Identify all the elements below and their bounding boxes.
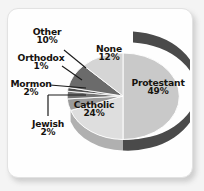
pie-label-protestant-value: 49% [126,87,190,96]
pie-label-jewish: Jewish 2% [25,119,71,138]
pie-chart: Other 10% Orthodox 1% Mormon 2% Jewish 2… [0,0,204,191]
pie-label-orthodox-value: 1% [10,62,72,71]
pie-label-catholic-value: 24% [68,109,120,118]
pie-label-none-value: 12% [88,53,130,62]
pie-label-protestant: Protestant 49% [126,78,190,97]
pie-label-none: None 12% [88,44,130,63]
pie-label-other: Other 10% [24,27,70,46]
pie-label-orthodox: Orthodox 1% [10,53,72,72]
chart-figure: Other 10% Orthodox 1% Mormon 2% Jewish 2… [0,0,204,191]
pie-label-other-value: 10% [24,36,70,45]
pie-label-catholic: Catholic 24% [68,100,120,119]
pie-label-jewish-value: 2% [25,128,71,137]
pie-label-mormon: Mormon 2% [3,79,59,98]
pie-label-mormon-value: 2% [3,88,59,97]
